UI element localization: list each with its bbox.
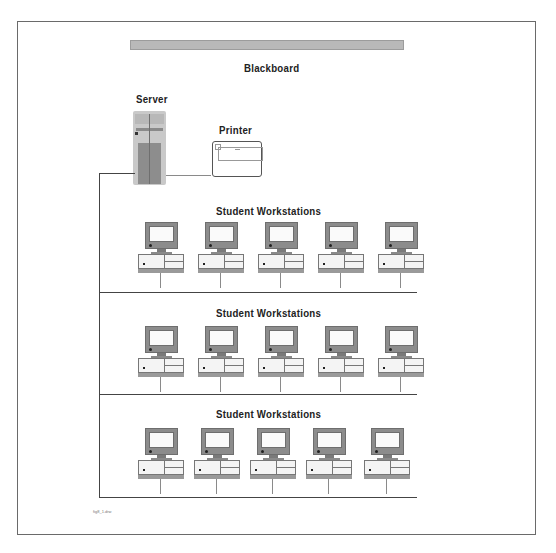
row-1-label: Student Workstations	[216, 205, 321, 217]
workstation-icon	[318, 326, 364, 396]
workstation-icon	[378, 326, 424, 396]
workstation-icon	[198, 222, 244, 292]
workstation-icon	[306, 428, 352, 498]
workstation-icon	[258, 222, 304, 292]
blackboard-label: Blackboard	[244, 62, 299, 74]
server-printer-link	[166, 175, 211, 176]
row-1-bus	[99, 292, 417, 293]
server-bus-link	[99, 173, 135, 174]
workstation-icon	[258, 326, 304, 396]
row-3-label: Student Workstations	[216, 408, 321, 420]
workstation-icon	[138, 428, 184, 498]
network-backbone	[99, 173, 100, 498]
server-icon	[133, 111, 166, 185]
workstation-icon	[364, 428, 410, 498]
printer-label: Printer	[219, 124, 252, 136]
blackboard-bar	[130, 40, 404, 50]
workstation-icon	[378, 222, 424, 292]
workstation-icon	[318, 222, 364, 292]
workstation-icon	[198, 326, 244, 396]
printer-icon	[209, 141, 263, 177]
workstation-icon	[250, 428, 296, 498]
workstation-icon	[138, 222, 184, 292]
workstation-icon	[138, 326, 184, 396]
row-2-label: Student Workstations	[216, 307, 321, 319]
workstation-icon	[194, 428, 240, 498]
server-label: Server	[136, 93, 168, 105]
file-label: fig8_1.drw	[93, 509, 111, 514]
